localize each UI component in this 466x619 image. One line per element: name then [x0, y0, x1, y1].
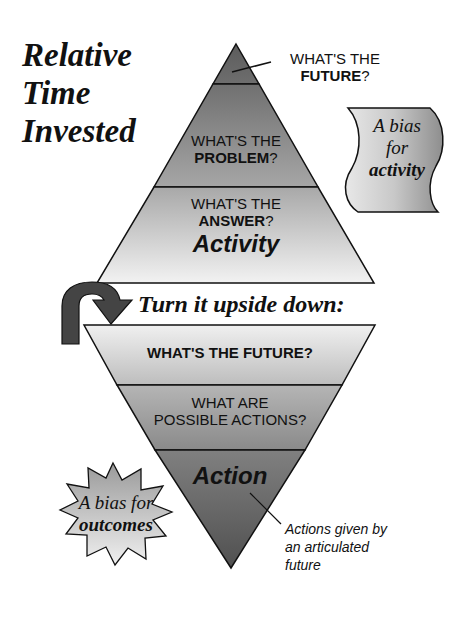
banner-line-3: activity: [362, 159, 432, 181]
callout-line-1: WHAT'S THE: [275, 50, 395, 67]
problem-line-1: WHAT'S THE: [166, 132, 306, 149]
question-mark: ?: [265, 212, 273, 229]
future-keyword: FUTURE: [300, 67, 361, 84]
activity-label: Activity: [156, 230, 316, 258]
title-line-1: Relative: [22, 36, 136, 74]
top-answer-label: WHAT'S THE ANSWER? Activity: [156, 195, 316, 258]
problem-keyword: PROBLEM: [194, 149, 269, 166]
title-line-2: Time: [22, 74, 136, 112]
callout-line-3: future: [285, 556, 387, 574]
callout-line-1: Actions given by: [285, 520, 387, 538]
callout-line-2: an articulated: [285, 538, 387, 556]
action-label: Action: [180, 462, 280, 490]
actions-line-2: POSSIBLE ACTIONS?: [150, 411, 310, 428]
banner-line-1: A bias: [362, 115, 432, 137]
starburst-text: A bias for outcomes: [60, 492, 172, 536]
diagram-title: Relative Time Invested: [22, 36, 136, 150]
callout-line-2: FUTURE?: [275, 67, 395, 84]
starburst-line-1: A bias for: [60, 492, 172, 514]
action-callout-label: Actions given by an articulated future: [285, 520, 387, 574]
top-future-callout-label: WHAT'S THE FUTURE?: [275, 50, 395, 84]
answer-line-2: ANSWER?: [156, 212, 316, 229]
bottom-actions-label: WHAT ARE POSSIBLE ACTIONS?: [150, 394, 310, 428]
title-line-3: Invested: [22, 112, 136, 150]
banner-text: A bias for activity: [362, 115, 432, 181]
top-problem-label: WHAT'S THE PROBLEM?: [166, 132, 306, 166]
answer-line-1: WHAT'S THE: [156, 195, 316, 212]
banner-line-2: for: [362, 137, 432, 159]
answer-keyword: ANSWER: [198, 212, 265, 229]
question-mark: ?: [269, 149, 277, 166]
turn-upside-down-text: Turn it upside down:: [138, 290, 345, 318]
starburst-line-2: outcomes: [60, 514, 172, 536]
top-tier-future: [213, 44, 259, 84]
actions-line-1: WHAT ARE: [150, 394, 310, 411]
bottom-future-label: WHAT'S THE FUTURE?: [110, 344, 350, 361]
question-mark: ?: [361, 67, 369, 84]
problem-line-2: PROBLEM?: [166, 149, 306, 166]
